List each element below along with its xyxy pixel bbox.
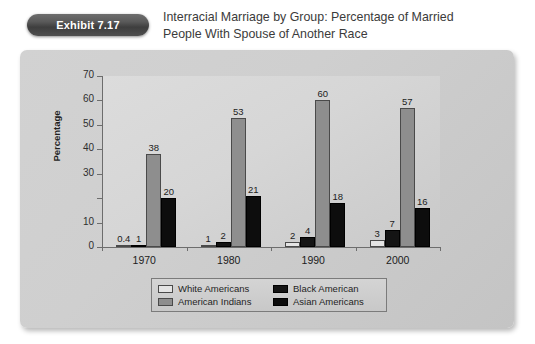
x-axis-label: 2000 <box>386 254 409 266</box>
bar-value-label: 38 <box>148 142 159 153</box>
bar-value-label: 1 <box>136 233 141 244</box>
bar[interactable]: 38 <box>146 154 161 247</box>
bar-value-label: 2 <box>290 230 295 241</box>
y-tick-label: 0 <box>88 240 94 251</box>
y-tick-label: 50 <box>83 118 94 129</box>
legend-swatch <box>273 298 288 306</box>
x-tick-mark <box>187 247 188 251</box>
bar-value-label: 20 <box>163 186 174 197</box>
bar-group: 125321 <box>187 76 272 247</box>
bar[interactable]: 60 <box>315 100 330 247</box>
bar-value-label: 18 <box>332 191 343 202</box>
x-tick-mark <box>102 247 103 251</box>
bar[interactable]: 1 <box>131 245 146 248</box>
y-tick-label: 10 <box>83 216 94 227</box>
plot-area: 0103040506070 0.413820125321246018375716… <box>102 76 440 248</box>
legend-label: Asian Americans <box>293 296 364 307</box>
bar-group: 375716 <box>356 76 441 247</box>
bar[interactable]: 1 <box>201 245 216 248</box>
legend-label: White Americans <box>178 283 249 294</box>
bar[interactable]: 53 <box>231 118 246 247</box>
chart-panel: Percentage 0103040506070 0.4138201253212… <box>20 50 514 328</box>
bar-value-label: 21 <box>248 184 259 195</box>
y-tick-label: 40 <box>83 142 94 153</box>
bar-value-label: 1 <box>206 233 211 244</box>
y-tick-label: 70 <box>83 69 94 80</box>
bar-value-label: 0.4 <box>117 233 130 244</box>
legend-swatch <box>273 285 288 293</box>
bar-value-label: 53 <box>233 106 244 117</box>
chart-legend: White AmericansBlack AmericanAmerican In… <box>151 278 387 312</box>
legend-grid: White AmericansBlack AmericanAmerican In… <box>158 282 380 308</box>
legend-item[interactable]: White Americans <box>158 283 265 294</box>
exhibit-number-label: Exhibit 7.17 <box>56 19 120 31</box>
bar[interactable]: 16 <box>415 208 430 247</box>
page-title: Interracial Marriage by Group: Percentag… <box>163 9 493 43</box>
bar[interactable]: 18 <box>330 203 345 247</box>
bar-group: 246018 <box>271 76 356 247</box>
x-tick-mark <box>440 247 441 251</box>
bar-group: 0.413820 <box>102 76 187 247</box>
legend-label: American Indians <box>178 296 251 307</box>
x-axis-label: 1980 <box>217 254 240 266</box>
bar[interactable]: 0.4 <box>116 245 131 248</box>
y-tick-label: 60 <box>83 93 94 104</box>
bar[interactable]: 4 <box>300 237 315 247</box>
bar[interactable]: 57 <box>400 108 415 247</box>
y-axis-title: Percentage <box>51 110 62 161</box>
bar-value-label: 57 <box>402 96 413 107</box>
legend-item[interactable]: Asian Americans <box>273 296 380 307</box>
bar[interactable]: 2 <box>285 242 300 247</box>
exhibit-number-badge: Exhibit 7.17 <box>27 14 149 36</box>
x-tick-mark <box>356 247 357 251</box>
legend-item[interactable]: Black American <box>273 283 380 294</box>
y-tick-label: 30 <box>83 167 94 178</box>
bar-value-label: 60 <box>317 88 328 99</box>
bar-value-label: 16 <box>417 196 428 207</box>
x-tick-mark <box>271 247 272 251</box>
legend-swatch <box>158 298 173 306</box>
exhibit-header: Exhibit 7.17 Interracial Marriage by Gro… <box>0 0 535 56</box>
bar-value-label: 2 <box>221 230 226 241</box>
legend-swatch <box>158 285 173 293</box>
x-axis-label: 1990 <box>302 254 325 266</box>
bar-value-label: 3 <box>375 228 380 239</box>
bar-value-label: 7 <box>390 218 395 229</box>
x-axis-label: 1970 <box>133 254 156 266</box>
bar[interactable]: 20 <box>161 198 176 247</box>
bar[interactable]: 21 <box>246 196 261 247</box>
legend-item[interactable]: American Indians <box>158 296 265 307</box>
bar[interactable]: 7 <box>385 230 400 247</box>
bar[interactable]: 3 <box>370 240 385 247</box>
bar-value-label: 4 <box>305 225 310 236</box>
bar[interactable]: 2 <box>216 242 231 247</box>
legend-label: Black American <box>293 283 358 294</box>
